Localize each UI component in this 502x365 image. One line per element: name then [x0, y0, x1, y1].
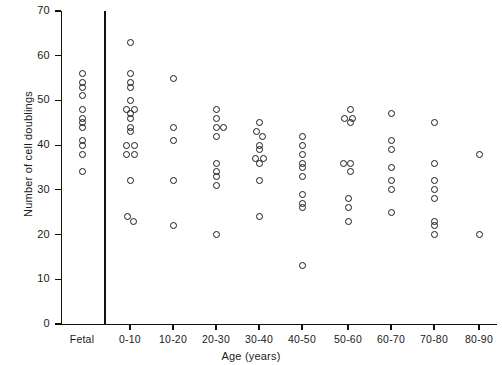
- data-point: [340, 160, 347, 167]
- x-axis-tick-label-80-90: 80-90: [449, 334, 502, 345]
- y-axis-tick: [55, 323, 61, 324]
- data-point: [299, 173, 306, 180]
- data-point: [388, 146, 395, 153]
- data-point: [347, 160, 354, 167]
- data-point: [299, 151, 306, 158]
- x-axis-tick: [215, 324, 216, 330]
- fetal-group-divider: [104, 11, 106, 324]
- y-axis-tick: [55, 189, 61, 190]
- data-point: [213, 124, 220, 131]
- data-point: [170, 137, 177, 144]
- data-point: [388, 164, 395, 171]
- data-point: [170, 177, 177, 184]
- data-point: [130, 218, 137, 225]
- data-point: [299, 164, 306, 171]
- data-point: [256, 213, 263, 220]
- data-point: [299, 262, 306, 269]
- data-point: [127, 84, 134, 91]
- x-axis-tick: [129, 324, 130, 330]
- data-point: [123, 142, 130, 149]
- data-point: [388, 209, 395, 216]
- data-point: [345, 195, 352, 202]
- y-axis-tick: [55, 145, 61, 146]
- data-point: [131, 142, 138, 149]
- data-point: [170, 75, 177, 82]
- data-point: [256, 119, 263, 126]
- data-point: [79, 124, 86, 131]
- data-point: [299, 204, 306, 211]
- data-point: [79, 70, 86, 77]
- data-point: [259, 133, 266, 140]
- data-point: [79, 142, 86, 149]
- y-axis-tick-label: 70: [10, 5, 50, 16]
- data-point: [213, 173, 220, 180]
- data-point: [431, 195, 438, 202]
- data-point: [256, 160, 263, 167]
- data-point: [388, 186, 395, 193]
- data-point: [127, 177, 134, 184]
- data-point: [213, 106, 220, 113]
- data-point: [170, 222, 177, 229]
- data-point: [256, 177, 263, 184]
- y-axis-tick-label: 10: [10, 273, 50, 284]
- data-point: [79, 151, 86, 158]
- data-point: [213, 133, 220, 140]
- data-point: [347, 106, 354, 113]
- data-point: [388, 137, 395, 144]
- data-point: [123, 151, 130, 158]
- data-point: [476, 151, 483, 158]
- data-point: [79, 168, 86, 175]
- x-axis-tick: [258, 324, 259, 330]
- data-point: [131, 151, 138, 158]
- y-axis-tick: [55, 10, 61, 11]
- data-point: [299, 191, 306, 198]
- data-point: [345, 204, 352, 211]
- data-point: [213, 182, 220, 189]
- data-point: [213, 231, 220, 238]
- data-point: [127, 39, 134, 46]
- data-point: [220, 124, 227, 131]
- data-point: [431, 119, 438, 126]
- scatter-plot: 010203040506070 Fetal0-1010-2020-3030-40…: [0, 0, 502, 365]
- data-point: [256, 146, 263, 153]
- data-point: [347, 168, 354, 175]
- data-point: [431, 186, 438, 193]
- data-point: [388, 110, 395, 117]
- y-axis-tick-label: 0: [10, 318, 50, 329]
- data-point: [299, 142, 306, 149]
- x-axis-tick: [172, 324, 173, 330]
- data-point: [431, 222, 438, 229]
- data-point: [431, 231, 438, 238]
- x-axis-tick: [301, 324, 302, 330]
- data-point: [127, 97, 134, 104]
- y-axis-title: Number of cell doublings: [22, 59, 34, 249]
- x-axis-tick: [478, 324, 479, 330]
- x-axis-line: [61, 324, 497, 325]
- data-point: [299, 133, 306, 140]
- data-point: [345, 218, 352, 225]
- data-point: [347, 119, 354, 126]
- data-point: [79, 106, 86, 113]
- y-axis-tick: [55, 279, 61, 280]
- data-point: [127, 70, 134, 77]
- x-axis-tick: [390, 324, 391, 330]
- x-axis-title: Age (years): [0, 350, 502, 362]
- y-axis-tick: [55, 100, 61, 101]
- data-point: [213, 160, 220, 167]
- x-axis-tick: [433, 324, 434, 330]
- data-point: [431, 177, 438, 184]
- data-point: [388, 177, 395, 184]
- data-point: [127, 115, 134, 122]
- y-axis-tick: [55, 55, 61, 56]
- data-point: [476, 231, 483, 238]
- data-point: [127, 128, 134, 135]
- y-axis-tick: [55, 234, 61, 235]
- data-point: [79, 84, 86, 91]
- data-point: [213, 115, 220, 122]
- data-point: [79, 92, 86, 99]
- y-axis-line: [61, 11, 62, 325]
- data-point: [431, 160, 438, 167]
- data-point: [170, 124, 177, 131]
- x-axis-tick: [347, 324, 348, 330]
